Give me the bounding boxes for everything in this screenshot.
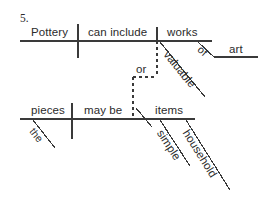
predicate-nominative-slant — [136, 108, 152, 127]
word-may-be: may be — [84, 105, 122, 117]
word-pottery: Pottery — [31, 27, 68, 39]
word-can-include: can include — [88, 27, 147, 39]
word-works: works — [167, 27, 198, 39]
sentence-diagram: 5. Pottery can include works — [0, 0, 267, 205]
word-items: items — [155, 105, 183, 117]
word-art: art — [229, 44, 243, 56]
word-or: or — [136, 64, 146, 76]
word-pieces: pieces — [31, 105, 65, 117]
